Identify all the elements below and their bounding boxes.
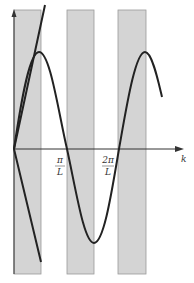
x-axis-label: k (181, 154, 186, 164)
svg-text:2π: 2π (101, 155, 115, 165)
tick-label-2pi-over-L: 2π L (101, 155, 115, 177)
shaded-band-1 (14, 10, 41, 274)
svg-text:π: π (56, 155, 64, 165)
x-axis-arrow-icon (175, 146, 184, 152)
svg-text:L: L (104, 167, 111, 177)
shaded-band-3 (118, 10, 146, 274)
tick-label-pi-over-L: π L (55, 155, 65, 177)
shaded-band-2 (67, 10, 94, 274)
dispersion-diagram: π L 2π L k (0, 0, 194, 283)
svg-text:L: L (56, 167, 63, 177)
